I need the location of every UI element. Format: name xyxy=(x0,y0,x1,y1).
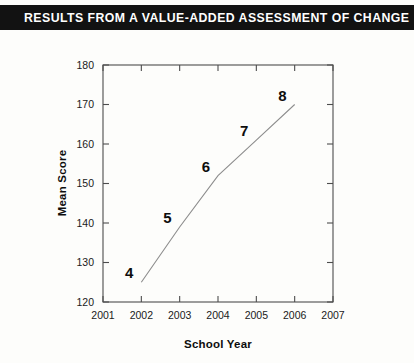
page-title: RESULTS FROM A VALUE-ADDED ASSESSMENT OF… xyxy=(0,11,410,25)
x-tick-label: 2007 xyxy=(321,309,345,321)
data-point-label: 6 xyxy=(202,158,210,175)
x-tick-label: 2001 xyxy=(91,309,115,321)
x-axis-tick-labels: 2001200220032004200520062007 xyxy=(91,309,345,321)
y-tick-label: 170 xyxy=(76,98,94,110)
x-tick-label: 2004 xyxy=(206,309,230,321)
chart-figure: 120130140150160170180 200120022003200420… xyxy=(0,30,414,363)
x-tick-label: 2006 xyxy=(283,309,307,321)
x-axis-title: School Year xyxy=(184,338,252,350)
y-axis-ticks xyxy=(103,65,333,302)
data-point-label: 7 xyxy=(240,122,248,139)
y-axis-title: Mean Score xyxy=(56,150,68,217)
data-point-label: 8 xyxy=(278,87,286,104)
y-tick-label: 130 xyxy=(76,256,94,268)
y-tick-label: 150 xyxy=(76,177,94,189)
data-point-label: 5 xyxy=(163,209,171,226)
x-tick-label: 2005 xyxy=(245,309,269,321)
plot-frame xyxy=(103,65,333,302)
y-axis-tick-labels: 120130140150160170180 xyxy=(76,59,94,308)
data-point-label: 4 xyxy=(125,264,134,281)
y-tick-label: 180 xyxy=(76,59,94,71)
data-point-labels: 45678 xyxy=(125,87,287,282)
title-banner: RESULTS FROM A VALUE-ADDED ASSESSMENT OF… xyxy=(0,5,414,30)
x-tick-label: 2002 xyxy=(130,309,154,321)
line-chart: 120130140150160170180 200120022003200420… xyxy=(0,30,414,363)
data-series-line xyxy=(141,105,294,283)
y-tick-label: 160 xyxy=(76,138,94,150)
y-tick-label: 120 xyxy=(76,296,94,308)
x-tick-label: 2003 xyxy=(168,309,192,321)
y-tick-label: 140 xyxy=(76,217,94,229)
x-axis-ticks xyxy=(103,65,333,302)
